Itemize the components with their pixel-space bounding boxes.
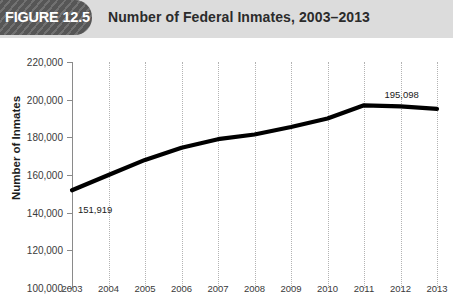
figure-header-band: FIGURE 12.5 Number of Federal Inmates, 2… [0,0,453,38]
data-point-label: 151,919 [78,204,112,215]
figure-number-label: FIGURE 12.5 [5,9,90,25]
inmates-trend-line [72,105,437,190]
figure-container: FIGURE 12.5 Number of Federal Inmates, 2… [0,0,453,300]
data-point-label: 195,098 [385,89,419,100]
figure-title: Number of Federal Inmates, 2003–2013 [108,9,370,25]
inmates-line-series [0,38,453,300]
figure-number-tag: FIGURE 12.5 [0,0,92,35]
chart-plot-area: Number of Inmates 100,000120,000140,0001… [0,38,453,300]
